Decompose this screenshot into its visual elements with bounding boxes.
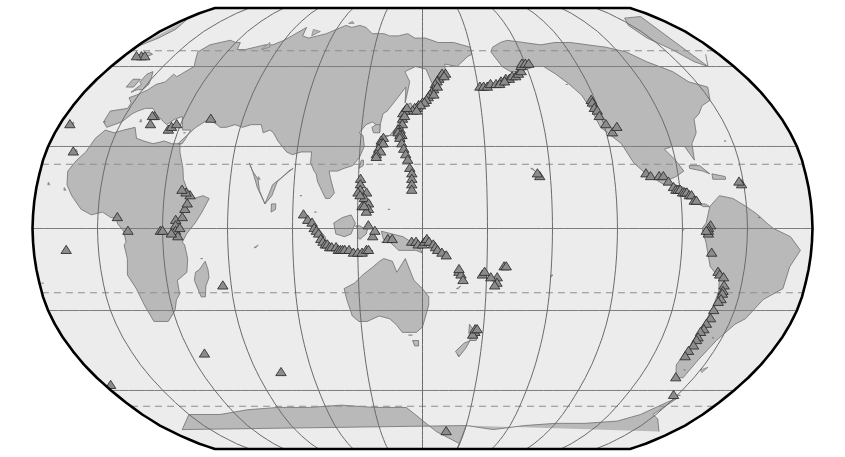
world-map-svg [0, 0, 845, 457]
world-map-figure [0, 0, 845, 457]
